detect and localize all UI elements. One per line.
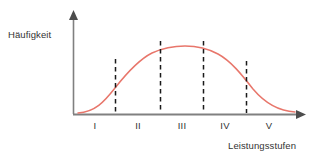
tick-label-2: II xyxy=(124,120,152,131)
chart-graphic xyxy=(0,0,318,161)
x-axis-label: Leistungsstufen xyxy=(228,140,296,151)
y-axis-arrow-icon xyxy=(69,10,78,20)
chart-container: Häufigkeit Leistungsstufen I II III IV V xyxy=(0,0,318,161)
distribution-curve xyxy=(78,46,295,113)
y-axis-label: Häufigkeit xyxy=(8,29,51,40)
x-axis-arrow-icon xyxy=(296,110,306,119)
tick-label-4: IV xyxy=(211,120,239,131)
tick-label-5: V xyxy=(255,120,283,131)
tick-label-3: III xyxy=(168,120,196,131)
tick-label-1: I xyxy=(81,120,109,131)
